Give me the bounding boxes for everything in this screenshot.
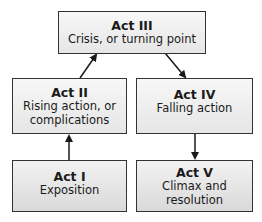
node-title: Act IV	[174, 87, 216, 102]
node-act3: Act III Crisis, or turning point	[58, 11, 206, 54]
node-description: Crisis, or turning point	[68, 33, 196, 47]
node-act4: Act IV Falling action	[136, 78, 253, 134]
node-title: Act I	[53, 169, 85, 184]
arrow-act3-to-act4	[165, 53, 185, 77]
node-title: Act II	[51, 85, 88, 100]
node-title: Act III	[111, 18, 152, 33]
node-act5: Act V Climax and resolution	[136, 160, 253, 212]
node-description: Exposition	[40, 184, 100, 198]
node-description: Falling action	[157, 102, 233, 116]
five-act-structure-diagram: Act III Crisis, or turning point Act II …	[0, 0, 262, 222]
node-title: Act V	[176, 165, 213, 180]
node-act2: Act II Rising action, or complications	[12, 78, 127, 134]
node-description: Climax and resolution	[137, 180, 252, 208]
arrow-act2-to-act3	[80, 55, 96, 78]
node-act1: Act I Exposition	[12, 160, 127, 212]
node-description: Rising action, or complications	[13, 100, 126, 128]
